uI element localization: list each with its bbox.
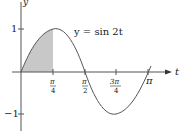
- x-tick-3pi4-den: 4: [114, 87, 119, 95]
- t-axis-label: t: [175, 66, 180, 77]
- y-axis-label: y: [22, 0, 29, 7]
- x-tick-pi: π: [145, 75, 153, 86]
- t-axis-arrow-icon: [165, 70, 172, 75]
- x-tick-pi2-den: 2: [83, 87, 87, 95]
- sine-graph: y t y = sin 2t 1 −1 π 4 π 2 3π 4 π: [0, 0, 182, 135]
- x-tick-3pi4-num: 3π: [110, 78, 119, 86]
- shaded-area: [21, 29, 53, 72]
- y-tick-label-minus1: −1: [4, 108, 19, 119]
- x-tick-pi4-den: 4: [51, 87, 56, 95]
- y-tick-label-1: 1: [11, 23, 17, 34]
- x-tick-pi2-num: π: [81, 78, 87, 86]
- function-label: y = sin 2t: [73, 26, 123, 37]
- x-tick-pi4-num: π: [49, 78, 55, 86]
